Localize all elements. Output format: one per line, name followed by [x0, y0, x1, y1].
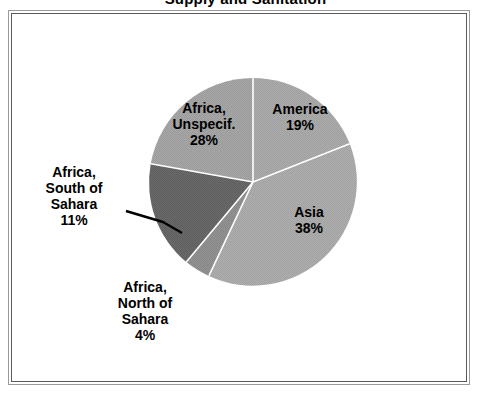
pie-label-asia-percent: 38%: [272, 220, 346, 236]
pie-label-africa-unspecified-percent: 28%: [157, 132, 251, 148]
pie-label-africa-unspecified-line2: Unspecif.: [157, 116, 251, 132]
pie-label-africa-north-line1: Africa,: [93, 279, 197, 295]
pie-label-africa-south-line3: Sahara: [19, 196, 129, 212]
chart-title: Supply and Sanitation: [0, 0, 491, 7]
pie-label-africa-unspecified: Africa, Unspecif. 28%: [157, 100, 251, 148]
pie-label-africa-north-line3: Sahara: [93, 311, 197, 327]
pie-label-africa-unspecified-line1: Africa,: [157, 100, 251, 116]
pie-label-africa-north: Africa, North of Sahara 4%: [93, 279, 197, 343]
pie-label-africa-south-line2: South of: [19, 180, 129, 196]
pie-label-america-percent: 19%: [254, 117, 346, 133]
pie-label-africa-south-percent: 11%: [19, 212, 129, 228]
pie-label-america: America 19%: [254, 101, 346, 133]
pie-label-africa-south: Africa, South of Sahara 11%: [19, 164, 129, 228]
pie-label-africa-south-line1: Africa,: [19, 164, 129, 180]
pie-label-africa-north-line2: North of: [93, 295, 197, 311]
pie-label-asia-name: Asia: [272, 204, 346, 220]
pie-label-africa-north-percent: 4%: [93, 327, 197, 343]
pie-label-america-name: America: [254, 101, 346, 117]
pie-label-asia: Asia 38%: [272, 204, 346, 236]
